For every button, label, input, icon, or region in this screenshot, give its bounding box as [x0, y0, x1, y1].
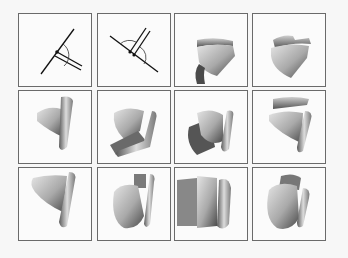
bone-render-icon	[19, 168, 91, 240]
panel-bone-render-3	[18, 90, 92, 164]
bone-render-icon	[175, 91, 247, 163]
panel-bone-render-10	[252, 167, 326, 241]
bone-render-icon	[253, 91, 325, 163]
bone-render-icon	[98, 168, 170, 240]
bone-render-icon	[19, 91, 91, 163]
bone-render-icon	[175, 14, 247, 86]
joint-angle-diagram-icon	[19, 14, 91, 86]
panel-bone-render-2	[252, 13, 326, 87]
bone-render-icon	[253, 168, 325, 240]
panel-bone-render-7	[18, 167, 92, 241]
panel-bone-render-5	[174, 90, 248, 164]
bone-render-icon	[253, 14, 325, 86]
joint-angle-diagram-icon	[98, 14, 170, 86]
panel-bone-render-6	[252, 90, 326, 164]
panel-angle-diagram-2	[97, 13, 171, 87]
panel-angle-diagram-1	[18, 13, 92, 87]
panel-bone-render-9	[174, 167, 248, 241]
panel-bone-render-8	[97, 167, 171, 241]
bone-render-icon	[175, 168, 247, 240]
panel-bone-render-1	[174, 13, 248, 87]
bone-render-icon	[98, 91, 170, 163]
panel-bone-render-4	[97, 90, 171, 164]
